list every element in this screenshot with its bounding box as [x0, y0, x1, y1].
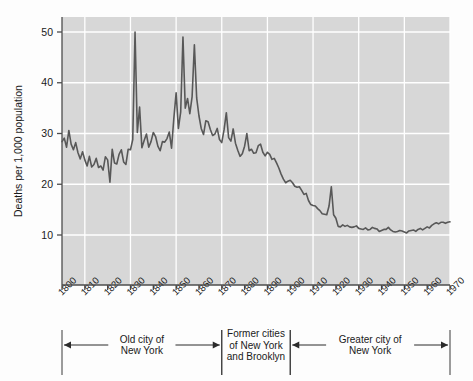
- annotation-label: of New York: [229, 340, 283, 351]
- y-tick-label: 30: [41, 127, 53, 139]
- annotation-label: Greater city of: [339, 334, 402, 345]
- annotation-label: New York: [121, 345, 164, 356]
- chart-canvas: 1020304050 18001810182018301840185018601…: [0, 0, 473, 381]
- annotation-label: New York: [349, 345, 392, 356]
- y-tick-label: 40: [41, 76, 53, 88]
- y-tick-label: 10: [41, 229, 53, 241]
- y-tick-label: 20: [41, 178, 53, 190]
- y-tick-label: 50: [41, 26, 53, 38]
- y-axis-title: Deaths per 1,000 population: [12, 85, 24, 217]
- annotation-label: Old city of: [120, 334, 165, 345]
- annotation-label: Former cities: [227, 328, 285, 339]
- annotation-label: and Brooklyn: [227, 351, 285, 362]
- death-rate-line-chart: 1020304050 18001810182018301840185018601…: [0, 0, 473, 381]
